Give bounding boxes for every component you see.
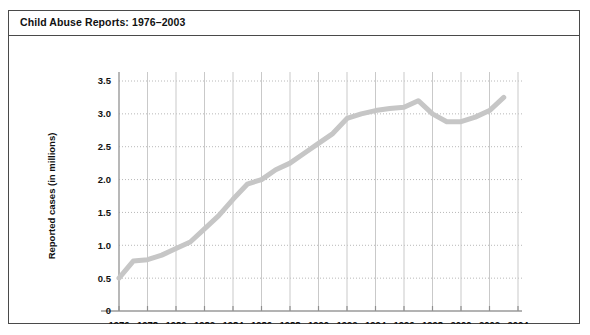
plot-area: 00.51.01.52.02.53.03.5 19761978198019821… (9, 36, 579, 323)
x-axis-tick-label: 1980 (165, 319, 186, 324)
line-chart: 00.51.01.52.02.53.03.5 19761978198019821… (9, 36, 579, 324)
axis-lines (101, 72, 522, 311)
y-axis-tick-labels: 00.51.01.52.02.53.03.5 (98, 75, 112, 316)
data-series-line (119, 97, 504, 278)
x-axis-tick-label: 2000 (450, 319, 471, 324)
x-axis-tick-label: 2004 (507, 319, 529, 324)
x-axis-tick-label: 1986 (251, 319, 272, 324)
title-band: Child Abuse Reports: 1976–2003 (9, 11, 579, 36)
y-axis-tick-label: 1.5 (98, 207, 112, 218)
y-axis-tick-label: 0.5 (98, 273, 112, 284)
x-axis-tick-label: 1976 (108, 319, 129, 324)
x-axis-tick-label: 1988 (279, 319, 300, 324)
chart-figure: Child Abuse Reports: 1976–2003 00.51.01.… (8, 10, 580, 324)
y-axis-tick-label: 0 (106, 305, 111, 316)
page-title: Child Abuse Reports: 1976–2003 (20, 16, 185, 28)
y-axis-tick-label: 3.5 (98, 75, 112, 86)
y-axis-title: Reported cases (in millions) (46, 133, 57, 260)
x-axis-tick-label: 2002 (479, 319, 500, 324)
x-axis-tick-label: 1998 (422, 319, 443, 324)
y-axis-title-label: Reported cases (in millions) (46, 133, 57, 260)
x-axis-tick-label: 1992 (336, 319, 357, 324)
x-axis-tick-marks (119, 306, 518, 311)
x-axis-tick-label: 1982 (194, 319, 215, 324)
x-axis-tick-label: 1994 (365, 319, 387, 324)
vertical-gridlines (148, 72, 519, 311)
x-axis-tick-label: 1990 (308, 319, 329, 324)
y-axis-tick-label: 2.5 (98, 141, 112, 152)
y-axis-tick-label: 3.0 (98, 108, 111, 119)
x-axis-tick-label: 1996 (393, 319, 414, 324)
x-axis-tick-label: 1978 (137, 319, 158, 324)
x-axis-tick-label: 1984 (222, 319, 244, 324)
y-axis-tick-label: 2.0 (98, 174, 111, 185)
x-axis-tick-labels: 1976197819801982198419861988199019921994… (108, 319, 529, 324)
y-axis-tick-label: 1.0 (98, 240, 111, 251)
